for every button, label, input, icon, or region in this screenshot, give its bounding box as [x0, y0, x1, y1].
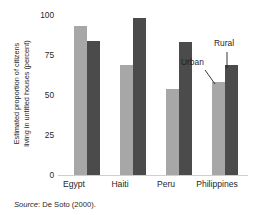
bar-philippines-rural [225, 65, 238, 175]
bar-peru-urban [166, 89, 179, 175]
y-tick-25: 25 [32, 131, 54, 139]
source-label: Source [14, 200, 38, 209]
x-label-egypt: Egypt [54, 179, 94, 189]
chart-figure: Estimated proportion of citizens living … [0, 0, 255, 215]
y-axis-title: Estimated proportion of citizens living … [12, 14, 31, 174]
bar-philippines-urban [212, 82, 225, 175]
y-axis-tick-labels: 100 75 50 25 0 [30, 0, 54, 215]
y-tick-100: 100 [32, 11, 54, 19]
x-axis-baseline [58, 175, 248, 176]
bar-haiti-urban [120, 65, 133, 175]
bar-egypt-urban [74, 26, 87, 175]
source-note: Source: De Soto (2000). [14, 200, 96, 209]
bar-egypt-rural [87, 41, 100, 175]
x-label-haiti: Haiti [100, 179, 140, 189]
y-tick-0: 0 [32, 171, 54, 179]
x-label-peru: Peru [146, 179, 186, 189]
bar-haiti-rural [133, 18, 146, 175]
annotation-urban: Urban [181, 58, 204, 67]
y-tick-75: 75 [32, 51, 54, 59]
x-label-philippines: Philippines [183, 179, 251, 189]
annotation-rural: Rural [214, 39, 234, 48]
y-tick-50: 50 [32, 91, 54, 99]
source-text: De Soto (2000). [42, 200, 96, 209]
